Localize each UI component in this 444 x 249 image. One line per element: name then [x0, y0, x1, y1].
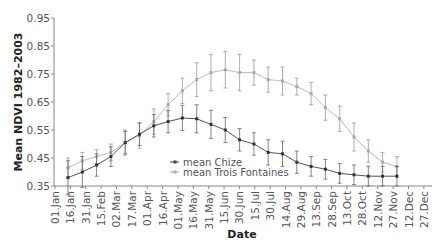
y-tick-label: 0.45	[27, 152, 50, 164]
data-point	[252, 71, 255, 74]
data-point	[324, 168, 327, 171]
data-point	[152, 124, 155, 127]
ndvi-line-chart: 0.950.850.750.650.550.450.35 01.Jan16.Ja…	[0, 0, 444, 249]
x-tick-label: 27.Nov	[387, 191, 399, 228]
x-tick-label: 30.Jul	[264, 191, 276, 220]
series-chize	[66, 105, 399, 195]
x-tick-label: 27.Dec	[418, 191, 430, 228]
x-tick-label: 29.Aug	[295, 191, 307, 228]
data-point	[310, 92, 313, 95]
data-point	[353, 136, 356, 139]
x-tick-label: 28.Oct	[356, 191, 368, 226]
y-tick-label: 0.95	[27, 12, 50, 24]
data-point	[195, 78, 198, 81]
data-point	[210, 123, 213, 126]
y-axis: 0.950.850.750.650.550.450.35	[27, 12, 54, 192]
data-point	[109, 155, 112, 158]
x-tick-label: 31.Jan	[80, 191, 92, 224]
x-tick-label: 31.May	[203, 191, 215, 229]
x-tick-label: 16.Apr	[157, 190, 169, 226]
y-axis-title: Mean NDVI 1982–2003	[12, 33, 25, 172]
data-point	[181, 89, 184, 92]
x-tick-label: 01.Apr	[141, 190, 153, 226]
x-tick-label: 01.Jan	[49, 191, 61, 224]
data-point	[338, 172, 341, 175]
data-point	[281, 152, 284, 155]
data-point	[95, 164, 98, 167]
data-point	[367, 150, 370, 153]
x-tick-label: 13.Oct	[341, 191, 353, 226]
y-tick-label: 0.85	[27, 40, 50, 52]
data-point	[338, 117, 341, 120]
data-point	[367, 175, 370, 178]
x-tick-label: 02.Mar	[110, 190, 122, 227]
x-tick-label: 16.Jan	[64, 191, 76, 224]
x-tick-label: 13.Sep	[310, 191, 322, 228]
x-tick-label: 28.Sep	[326, 191, 338, 228]
x-axis-title: Date	[227, 228, 256, 241]
data-point	[267, 151, 270, 154]
data-point	[324, 106, 327, 109]
data-point	[381, 175, 384, 178]
data-point	[210, 71, 213, 74]
data-point	[181, 116, 184, 119]
data-point	[167, 120, 170, 123]
data-point	[238, 71, 241, 74]
data-point	[195, 117, 198, 120]
data-point	[124, 141, 127, 144]
legend-item-label: mean Trois Fontaines	[183, 167, 289, 178]
x-axis: 01.Jan16.Jan31.Jan15.Feb02.Mar17.Mar01.A…	[49, 186, 432, 229]
x-tick-label: 30.Jun	[233, 191, 245, 224]
data-point	[310, 165, 313, 168]
data-point	[267, 78, 270, 81]
x-tick-label: 12.Dec	[403, 191, 415, 228]
data-point	[224, 68, 227, 71]
data-point	[281, 80, 284, 83]
data-point	[167, 103, 170, 106]
data-point	[224, 129, 227, 132]
x-tick-label: 15.Feb	[95, 191, 107, 227]
x-tick-label: 17.Mar	[126, 190, 138, 227]
y-tick-label: 0.75	[27, 68, 50, 80]
data-point	[238, 138, 241, 141]
x-tick-label: 14.Aug	[280, 191, 292, 228]
data-point	[252, 143, 255, 146]
x-tick-label: 01.May	[172, 191, 184, 229]
data-point	[295, 85, 298, 88]
y-tick-label: 0.35	[27, 180, 50, 192]
data-point	[395, 175, 398, 178]
y-tick-label: 0.65	[27, 96, 50, 108]
data-point	[67, 176, 70, 179]
x-tick-label: 12.Nov	[372, 191, 384, 228]
legend: mean Chizemean Trois Fontaines	[170, 157, 289, 178]
data-point	[138, 133, 141, 136]
x-tick-label: 15.Jun	[218, 191, 230, 224]
data-point	[81, 171, 84, 174]
data-point	[353, 173, 356, 176]
data-point	[381, 161, 384, 164]
data-point	[295, 161, 298, 164]
y-tick-label: 0.55	[27, 124, 50, 136]
x-tick-label: 16.May	[187, 191, 199, 229]
x-tick-label: 15.Jul	[249, 191, 261, 220]
